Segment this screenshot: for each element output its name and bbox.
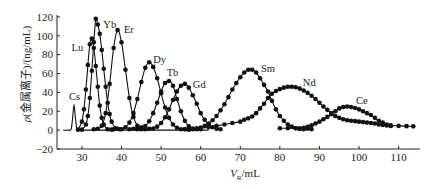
data-point-marker	[111, 46, 116, 51]
data-point-marker	[404, 124, 409, 129]
data-point-marker	[179, 127, 184, 132]
data-point-marker	[155, 124, 160, 129]
data-point-marker	[305, 125, 310, 130]
data-point-marker	[119, 127, 124, 132]
data-point-marker	[361, 109, 366, 114]
data-point-marker	[147, 60, 152, 65]
data-point-marker	[270, 92, 275, 97]
data-point-marker	[266, 96, 271, 101]
y-tick-label: 120	[37, 11, 54, 23]
data-point-marker	[105, 127, 110, 132]
data-point-marker	[278, 87, 283, 92]
data-point-marker	[82, 107, 87, 112]
data-point-marker	[214, 124, 219, 129]
data-point-marker	[147, 126, 152, 131]
data-point-marker	[167, 107, 172, 112]
data-point-marker	[159, 121, 164, 126]
data-point-marker	[92, 127, 97, 132]
data-point-marker	[234, 81, 239, 86]
data-point-marker	[353, 119, 358, 124]
x-tick-label: 90	[314, 151, 326, 163]
data-point-marker	[95, 126, 100, 131]
data-point-marker	[411, 124, 416, 129]
data-point-marker	[183, 118, 188, 123]
data-point-marker	[123, 67, 128, 72]
data-point-marker	[119, 40, 124, 45]
data-point-marker	[123, 125, 128, 130]
data-point-marker	[282, 118, 287, 123]
data-point-marker	[198, 126, 203, 131]
data-point-marker	[369, 121, 374, 126]
data-point-marker	[285, 126, 290, 131]
peak-label-ce: Ce	[356, 95, 368, 106]
peak-label-dy: Dy	[153, 54, 167, 65]
y-tick-label: 100	[37, 30, 54, 42]
data-point-marker	[190, 93, 195, 98]
data-point-marker	[80, 119, 85, 124]
data-point-marker	[198, 111, 203, 116]
data-point-marker	[155, 100, 160, 105]
data-point-marker	[254, 111, 259, 116]
data-point-marker	[147, 119, 152, 124]
data-point-marker	[380, 120, 385, 125]
data-point-marker	[127, 120, 132, 125]
data-point-marker	[151, 111, 156, 116]
data-point-marker	[167, 116, 172, 121]
data-point-marker	[97, 103, 102, 108]
data-point-marker	[357, 107, 362, 112]
data-point-marker	[103, 84, 108, 89]
y-tick-label: 80	[42, 48, 54, 60]
y-tick-label: 60	[42, 67, 54, 79]
data-point-marker	[388, 123, 393, 128]
data-point-marker	[353, 106, 358, 111]
series-line-ce	[280, 107, 413, 129]
data-point-marker	[171, 122, 176, 127]
data-point-marker	[107, 82, 112, 87]
data-point-marker	[242, 117, 247, 122]
data-point-marker	[258, 76, 263, 81]
data-point-marker	[76, 127, 81, 132]
data-point-marker	[171, 98, 176, 103]
peak-label-er: Er	[124, 24, 134, 35]
data-point-marker	[151, 126, 156, 131]
data-point-marker	[258, 106, 263, 111]
data-point-marker	[238, 75, 243, 80]
x-tick-label: 50	[156, 151, 168, 163]
data-point-marker	[373, 121, 378, 126]
data-point-marker	[337, 106, 342, 111]
data-point-marker	[285, 84, 290, 89]
data-point-marker	[190, 126, 195, 131]
chromatogram-chart: 30405060708090100110 −20020406080100120 …	[0, 0, 440, 189]
data-point-marker	[103, 111, 108, 116]
data-point-marker	[365, 111, 370, 116]
data-point-marker	[345, 118, 350, 123]
data-point-marker	[222, 122, 227, 127]
y-tick-label: 0	[48, 124, 54, 136]
data-point-marker	[93, 16, 98, 21]
data-point-marker	[297, 126, 302, 131]
data-point-marker	[361, 120, 366, 125]
data-point-marker	[80, 127, 85, 132]
data-point-marker	[313, 97, 318, 102]
data-point-marker	[194, 101, 199, 106]
data-point-marker	[246, 67, 251, 72]
peak-label-tb: Tb	[167, 67, 179, 78]
peak-label-cs: Cs	[69, 91, 80, 102]
data-point-marker	[305, 91, 310, 96]
y-tick-label: 20	[42, 105, 54, 117]
x-axis-unit: /mL	[242, 167, 261, 179]
data-point-marker	[274, 89, 279, 94]
data-point-marker	[222, 102, 227, 107]
data-point-marker	[250, 67, 255, 72]
data-point-marker	[329, 112, 334, 117]
data-point-marker	[109, 119, 114, 124]
data-point-marker	[202, 117, 207, 122]
data-point-marker	[218, 108, 223, 113]
series-sm	[190, 67, 313, 131]
data-point-marker	[175, 125, 180, 130]
data-point-marker	[88, 96, 93, 101]
data-point-marker	[333, 114, 338, 119]
data-point-marker	[159, 89, 164, 94]
data-point-marker	[282, 85, 287, 90]
data-point-marker	[301, 88, 306, 93]
